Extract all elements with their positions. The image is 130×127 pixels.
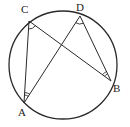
circle [9,11,117,119]
angle-mark-a [24,95,28,96]
label-c: C [21,3,28,15]
segment-ca [24,21,29,103]
diagram-shapes [9,11,117,119]
label-d: D [76,1,84,13]
geometry-diagram: C D B A [0,0,130,127]
label-a: A [18,106,26,118]
angle-mark-d [76,23,84,24]
segment-cb [29,21,111,81]
angle-mark-c [29,26,36,29]
label-b: B [113,82,120,94]
segment-ad [24,16,80,103]
angle-mark-a [25,93,30,95]
angle-mark-b [105,74,108,76]
diagram-labels: C D B A [18,1,120,118]
